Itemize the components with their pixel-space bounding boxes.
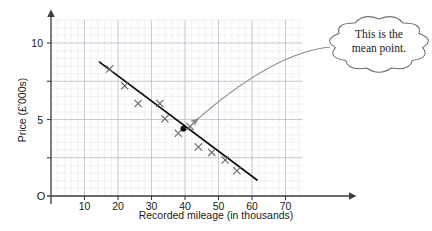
callout-text-line-2: mean point. [352,42,406,55]
y-axis-label: Price (£'000s) [16,78,28,142]
callout-text-line-1: This is the [355,28,403,40]
scatter-plot-figure: 10203040506070510 O Recorded mileage (in… [0,0,432,231]
origin-label: O [37,190,46,202]
x-axis-label: Recorded mileage (in thousands) [139,209,294,221]
x-tick-label: 10 [79,200,91,212]
x-tick-label: 20 [112,200,124,212]
chart-canvas: 10203040506070510 O Recorded mileage (in… [0,0,432,231]
y-tick-label: 10 [31,37,43,49]
mean-point-marker [180,126,186,132]
y-tick-label: 5 [37,114,43,126]
